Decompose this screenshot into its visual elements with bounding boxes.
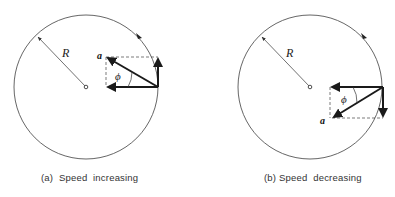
radius-line [262, 37, 310, 87]
radius-label: R [61, 46, 70, 60]
center-point [84, 85, 88, 89]
acceleration-vector-label: a [97, 50, 102, 61]
panel-speed-increasing: R ϕ a (a) Speed increasing [14, 15, 158, 183]
acceleration-vector-label: a [320, 115, 325, 126]
caption-a: (a) Speed increasing [41, 172, 138, 183]
radius-label: R [285, 46, 294, 60]
angle-label: ϕ [341, 93, 347, 105]
circular-motion-figure: R ϕ a (a) Speed increasing R ϕ a (b) Spe… [0, 0, 395, 197]
angle-arc [353, 87, 357, 103]
radius-line [38, 37, 86, 87]
caption-b: (b) Speed decreasing [264, 172, 362, 183]
motion-direction-arrow-icon [361, 33, 367, 39]
center-point [308, 85, 312, 89]
panel-speed-decreasing: R ϕ a (b) Speed decreasing [238, 15, 383, 183]
angle-label: ϕ [115, 70, 121, 82]
angle-arc [128, 72, 132, 87]
